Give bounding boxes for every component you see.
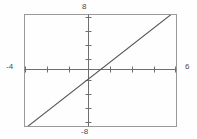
- y-max-label: 8: [82, 2, 86, 11]
- plot-svg: [0, 0, 197, 139]
- x-min-label: -4: [6, 62, 13, 71]
- x-max-label: 6: [185, 62, 189, 71]
- graph-canvas: 8 -8 -4 6: [0, 0, 197, 139]
- y-min-label: -8: [81, 127, 88, 136]
